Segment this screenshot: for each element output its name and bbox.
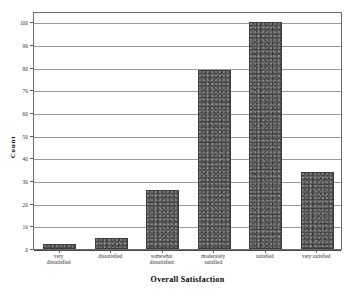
y-tick-label: 20 (23, 202, 28, 207)
x-tick-label-line: dissatisfied (150, 260, 174, 266)
x-tick-label: very satisfied (302, 254, 331, 260)
bar (43, 244, 76, 249)
bar-chart: Count 0102030405060708090100 verydissati… (0, 0, 354, 293)
y-tick-label: 80 (23, 66, 28, 71)
y-axis: 0102030405060708090100 (0, 12, 33, 250)
y-tick-label: 30 (23, 180, 28, 185)
x-tick-label-line: dissatisfied (47, 260, 71, 266)
x-tick-label-line: satisfied (201, 260, 225, 266)
y-tick-label: 70 (23, 89, 28, 94)
y-tick-label: 60 (23, 112, 28, 117)
x-axis: verydissatisfieddissatisfiedsomewhatdiss… (33, 250, 342, 268)
x-tick-label-line: very satisfied (302, 254, 331, 260)
x-tick-label: moderatelysatisfied (201, 254, 225, 265)
x-tick-label: satisfied (256, 254, 274, 260)
y-tick-label: 90 (23, 44, 28, 49)
bar (95, 238, 128, 249)
x-tick-label-line: satisfied (256, 254, 274, 260)
bar-series (34, 13, 341, 249)
bar (249, 22, 282, 249)
bar (301, 172, 334, 249)
y-tick-label: 50 (23, 134, 28, 139)
y-tick-label: 0 (25, 248, 28, 253)
y-tick-label: 10 (23, 225, 28, 230)
x-tick-label: somewhatdissatisfied (150, 254, 174, 265)
plot-area (33, 12, 342, 250)
y-tick-label: 100 (20, 21, 28, 26)
bar (146, 190, 179, 249)
bar (198, 70, 231, 249)
x-tick-label-line: dissatisfied (98, 254, 122, 260)
x-axis-title: Overall Satisfaction (33, 275, 342, 284)
x-tick-label: verydissatisfied (47, 254, 71, 265)
y-tick-label: 40 (23, 157, 28, 162)
x-tick-label: dissatisfied (98, 254, 122, 260)
